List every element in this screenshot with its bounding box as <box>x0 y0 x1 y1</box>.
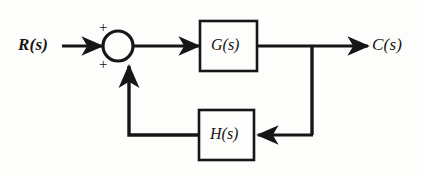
summing-sign-bottom-plus: + <box>99 57 107 72</box>
forward-block-label: G(s) <box>211 37 239 53</box>
feedback-return-line <box>129 66 199 135</box>
output-label: C(s) <box>372 36 402 53</box>
diagram-canvas <box>0 0 424 177</box>
feedback-block-label: H(s) <box>210 126 238 142</box>
summing-sign-top-plus: + <box>99 20 107 35</box>
input-label: R(s) <box>18 36 48 53</box>
block-diagram-figure: R(s) C(s) G(s) H(s) + + <box>0 0 424 177</box>
summing-junction-circle <box>103 31 133 61</box>
